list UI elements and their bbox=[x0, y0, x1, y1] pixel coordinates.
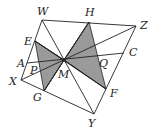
geometry-diagram: WHZECAPQMXGFY bbox=[0, 0, 155, 138]
label-x: X bbox=[8, 75, 18, 88]
label-f: F bbox=[109, 87, 118, 100]
label-c: C bbox=[129, 46, 138, 59]
point-m-dot bbox=[62, 58, 65, 61]
label-z: Z bbox=[139, 19, 148, 32]
label-a: A bbox=[16, 57, 25, 70]
segment-yx bbox=[21, 80, 94, 114]
label-q: Q bbox=[99, 57, 108, 70]
label-p: P bbox=[29, 64, 38, 77]
label-m: M bbox=[57, 68, 70, 81]
label-w: W bbox=[37, 5, 50, 18]
label-y: Y bbox=[88, 117, 97, 130]
label-g: G bbox=[33, 91, 42, 104]
label-h: H bbox=[84, 6, 95, 19]
label-e: E bbox=[23, 35, 32, 48]
